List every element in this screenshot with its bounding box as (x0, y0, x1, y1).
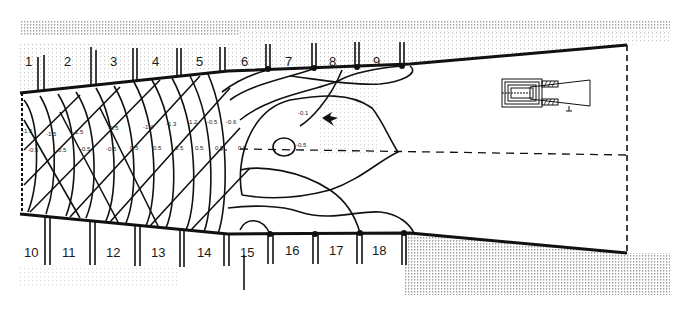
section-16: 16 (285, 243, 299, 258)
wave-contours (24, 74, 250, 234)
section-18: 18 (372, 243, 386, 258)
section-14: 14 (197, 245, 211, 260)
section-1: 1 (25, 54, 32, 69)
label-l3: -0.5 (106, 146, 117, 152)
label-eye: -0.5 (296, 142, 307, 148)
label-l4: 0.5 (130, 145, 139, 151)
section-15: 15 (240, 245, 254, 260)
label-u1: -1.5 (46, 131, 57, 137)
contour-value-labels: -1.5 -1.5 -1.5 -1.5 -1.4 -1.3 -1.2 -0.5 … (22, 110, 309, 153)
section-2: 2 (64, 54, 71, 69)
section-10: 10 (24, 245, 38, 260)
inset-apparatus-icon (502, 79, 590, 111)
label-l2: -0.5 (80, 146, 91, 152)
section-12: 12 (106, 245, 120, 260)
section-13: 13 (151, 245, 165, 260)
label-l7: 0.5 (195, 145, 204, 151)
label-l8: 0.5 (215, 145, 224, 151)
label-center-contour: -0.1 (298, 110, 309, 116)
section-9: 9 (373, 54, 380, 69)
label-l6: 0.5 (175, 145, 184, 151)
label-u0: -1.5 (22, 128, 33, 134)
duct-diagram: 1 2 3 4 5 6 7 8 9 10 11 12 13 14 15 16 1… (0, 0, 678, 313)
label-l1: -0.5 (56, 147, 67, 153)
bottom-section-labels: 10 11 12 13 14 15 16 17 18 (24, 243, 386, 260)
label-u7: -0.5 (207, 119, 218, 125)
section-11: 11 (62, 245, 76, 260)
label-l0: -0.5 (28, 147, 39, 153)
section-6: 6 (241, 54, 248, 69)
label-u2: -1.5 (73, 129, 84, 135)
section-5: 5 (196, 54, 203, 69)
centerline (240, 149, 627, 155)
label-u3: -1.5 (108, 125, 119, 131)
section-7: 7 (285, 54, 292, 69)
section-3: 3 (110, 54, 117, 69)
section-8: 8 (329, 54, 336, 69)
label-u6: -1.2 (187, 119, 198, 125)
label-l9: 0.5 (238, 145, 247, 151)
label-u5: -1.3 (166, 121, 177, 127)
label-l5: 0.5 (153, 145, 162, 151)
label-u4: -1.4 (143, 124, 154, 130)
section-4: 4 (152, 54, 159, 69)
section-17: 17 (329, 243, 343, 258)
label-u8: -0.6 (226, 119, 237, 125)
